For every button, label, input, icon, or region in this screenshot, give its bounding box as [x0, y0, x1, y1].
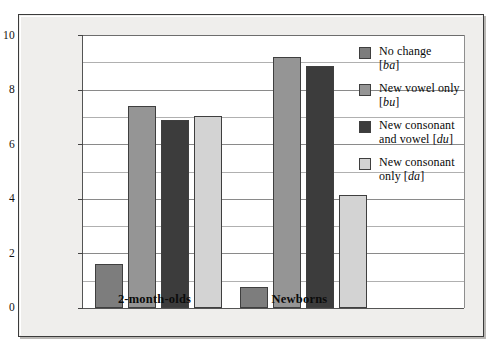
chart-legend: No change[ba]New vowel only[bu]New conso… — [359, 45, 479, 193]
bar-newborns-series-3 — [306, 66, 334, 308]
y-tick-label-8: 8 — [0, 83, 15, 95]
y-tick-label-2: 2 — [0, 247, 15, 259]
y-axis-title: Mean change in postshift sucking — [27, 0, 47, 35]
y-tick-label-0: 0 — [0, 301, 15, 313]
legend-swatch-icon-1 — [359, 47, 371, 59]
bar-2-month-olds-series-3 — [161, 120, 189, 308]
y-tick-mark-0 — [78, 308, 83, 309]
x-group-label-newborns: Newborns — [227, 292, 372, 307]
bar-2-month-olds-series-4 — [194, 116, 222, 308]
y-tick-label-6: 6 — [0, 138, 15, 150]
y-tick-label-4: 4 — [0, 192, 15, 204]
legend-item-3[interactable]: New consonantand vowel [du] — [359, 119, 479, 147]
legend-label-1: No change[ba] — [379, 45, 479, 72]
legend-swatch-icon-2 — [359, 84, 371, 96]
y-tick-label-10: 10 — [0, 29, 15, 41]
bar-newborns-series-2 — [273, 57, 301, 308]
legend-item-2[interactable]: New vowel only[bu] — [359, 82, 479, 110]
x-group-label-2-month-olds: 2-month-olds — [82, 292, 227, 307]
chart-panel: Mean change in postshift sucking 10 8 6 … — [18, 14, 484, 337]
legend-swatch-icon-3 — [359, 121, 371, 133]
legend-label-3: New consonantand vowel [du] — [379, 119, 479, 146]
figure-container: Mean change in postshift sucking 10 8 6 … — [0, 0, 503, 357]
legend-swatch-icon-4 — [359, 158, 371, 170]
legend-item-1[interactable]: No change[ba] — [359, 45, 479, 73]
legend-label-2: New vowel only[bu] — [379, 82, 479, 109]
bar-2-month-olds-series-2 — [128, 106, 156, 308]
legend-label-4: New consonantonly [da] — [379, 156, 479, 183]
legend-item-4[interactable]: New consonantonly [da] — [359, 156, 479, 184]
bar-newborns-series-4 — [339, 195, 367, 308]
